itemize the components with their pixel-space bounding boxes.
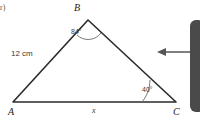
angle-label-c: 40° [142, 86, 153, 93]
vertex-label-a: A [8, 107, 14, 117]
angle-label-b: 84° [71, 28, 82, 35]
side-label-ac: x [92, 107, 96, 115]
side-label-ab: 12 cm [11, 50, 33, 58]
callout-panel[interactable] [190, 20, 200, 112]
vertex-label-c: C [173, 107, 180, 117]
vertex-label-b: B [74, 3, 80, 13]
triangle-figure [0, 0, 200, 122]
diagram-screenshot: r) B A C 84° 40° 12 cm x [0, 0, 200, 122]
item-tag: r) [0, 4, 5, 12]
